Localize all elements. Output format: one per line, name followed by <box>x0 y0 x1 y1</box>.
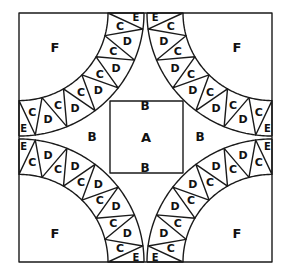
region-label-a: A <box>141 130 151 145</box>
piece-label-d: D <box>170 200 179 213</box>
piece-label-c: C <box>167 242 175 255</box>
arc-band-bottom-left <box>19 139 144 262</box>
piece-label-c: C <box>96 68 104 81</box>
piece-label-d: D <box>70 102 79 115</box>
piece-label-d: D <box>43 149 52 162</box>
piece-label-c: C <box>229 99 237 112</box>
piece-label-d: D <box>170 62 179 75</box>
piece-label-e: E <box>132 252 139 263</box>
piece-label-d: D <box>159 227 168 240</box>
piece-label-c: C <box>96 194 104 207</box>
region-label-b: B <box>140 161 149 175</box>
piece-label-d: D <box>111 62 120 75</box>
piece-label-d: D <box>94 178 103 191</box>
region-label-b: B <box>140 99 149 113</box>
piece-label-c: C <box>167 20 175 33</box>
piece-label-c: C <box>109 217 117 230</box>
piece-label-d: D <box>188 84 197 97</box>
piece-label-c: C <box>206 86 214 99</box>
piece-label-d: D <box>43 113 52 126</box>
piece-label-c: C <box>174 217 182 230</box>
piece-label-e: E <box>152 12 159 23</box>
piece-label-e: E <box>132 12 139 23</box>
piece-label-e: E <box>20 123 27 134</box>
piece-label-e: E <box>152 252 159 263</box>
piece-labels: EECCCCCCDDDDDEECCCCCCDDDDDEECCCCCCDDDDDE… <box>20 12 271 263</box>
piece-label-d: D <box>238 113 247 126</box>
piece-label-c: C <box>77 176 85 189</box>
piece-label-d: D <box>111 200 120 213</box>
piece-label-d: D <box>188 178 197 191</box>
piece-label-e: E <box>264 123 271 134</box>
piece-label-c: C <box>28 156 36 169</box>
piece-label-c: C <box>174 45 182 58</box>
arc-band-top-left <box>19 13 144 136</box>
piece-label-e: E <box>20 141 27 152</box>
arc-band-bottom-right <box>147 139 272 262</box>
piece-label-c: C <box>54 99 62 112</box>
piece-label-d: D <box>123 35 132 48</box>
zigzag-seams <box>19 139 144 262</box>
arc-band-top-right <box>147 13 272 136</box>
piece-label-d: D <box>238 149 247 162</box>
piece-label-c: C <box>255 156 263 169</box>
piece-label-c: C <box>54 163 62 176</box>
zigzag-seams <box>19 13 144 136</box>
piece-label-c: C <box>229 163 237 176</box>
region-label-f: F <box>233 40 242 55</box>
piece-label-e: E <box>264 141 271 152</box>
piece-label-c: C <box>187 194 195 207</box>
piece-label-c: C <box>206 176 214 189</box>
piece-label-c: C <box>77 86 85 99</box>
zigzag-seams <box>147 13 272 136</box>
piece-label-c: C <box>116 20 124 33</box>
region-label-f: F <box>51 40 60 55</box>
piece-label-c: C <box>28 106 36 119</box>
piece-label-d: D <box>123 227 132 240</box>
piece-label-c: C <box>255 106 263 119</box>
region-label-f: F <box>233 226 242 241</box>
piece-label-c: C <box>109 45 117 58</box>
region-label-f: F <box>51 226 60 241</box>
piece-label-d: D <box>211 160 220 173</box>
piece-label-d: D <box>94 84 103 97</box>
piece-label-d: D <box>70 160 79 173</box>
piece-label-d: D <box>211 102 220 115</box>
region-label-b: B <box>87 130 96 144</box>
piece-label-d: D <box>159 35 168 48</box>
zigzag-seams <box>147 139 272 262</box>
piece-label-c: C <box>187 68 195 81</box>
piece-label-c: C <box>116 242 124 255</box>
quilt-block-svg: EECCCCCCDDDDDEECCCCCCDDDDDEECCCCCCDDDDDE… <box>0 0 287 280</box>
quilt-diagram: EECCCCCCDDDDDEECCCCCCDDDDDEECCCCCCDDDDDE… <box>0 0 287 280</box>
region-label-b: B <box>195 130 204 144</box>
